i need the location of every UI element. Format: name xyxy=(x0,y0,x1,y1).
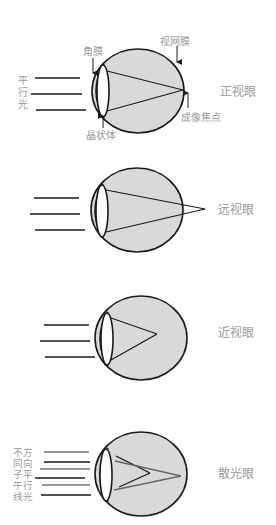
title-normal-eye: 正视眼 xyxy=(220,84,256,99)
eye-diagram: 角膜 视网膜 晶状体 成像焦点 平 行 光 正视眼 远视眼 近视眼 xyxy=(0,0,276,525)
label-parallel-3: 光 xyxy=(18,98,28,110)
label-focal-point: 成像焦点 xyxy=(181,111,221,123)
panel-astigmatism: 不方 同向 子平 午行 线光 散光眼 xyxy=(13,432,254,516)
label-parallel-2: 行 xyxy=(18,86,28,98)
panel-normal-eye: 角膜 视网膜 晶状体 成像焦点 平 行 光 正视眼 xyxy=(18,35,256,141)
label-cornea: 角膜 xyxy=(83,46,103,57)
label-retina: 视网膜 xyxy=(160,35,190,47)
panel-hyperopia: 远视眼 xyxy=(30,168,254,252)
lens xyxy=(100,449,112,501)
label-astig-2: 同向 xyxy=(13,458,33,469)
lens xyxy=(96,185,108,237)
label-astig-5: 线光 xyxy=(13,491,33,502)
title-myopia: 近视眼 xyxy=(218,325,254,340)
lens xyxy=(97,65,109,117)
title-hyperopia: 远视眼 xyxy=(218,202,254,217)
label-astig-4: 午行 xyxy=(13,480,33,491)
label-astig-3: 子平 xyxy=(13,469,33,480)
panel-myopia: 近视眼 xyxy=(40,296,254,380)
lens xyxy=(101,313,113,365)
label-astig-1: 不方 xyxy=(13,447,33,458)
title-astigmatism: 散光眼 xyxy=(218,466,254,481)
label-lens: 晶状体 xyxy=(86,129,116,141)
label-parallel-1: 平 xyxy=(18,75,28,86)
